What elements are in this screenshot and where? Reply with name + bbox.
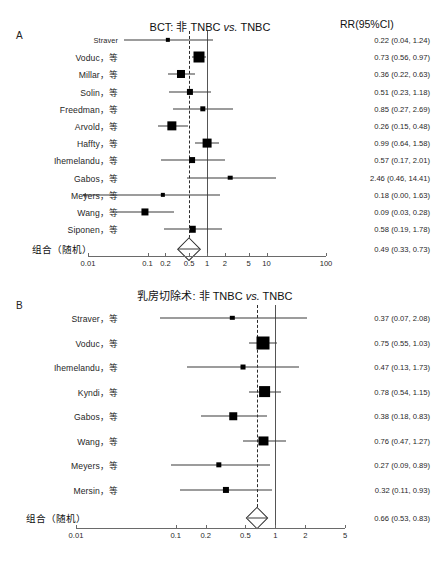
x-axis-tick bbox=[165, 253, 166, 256]
x-axis-tick-label: 1 bbox=[273, 531, 277, 540]
effect-estimate-marker bbox=[230, 316, 234, 320]
x-axis-tick bbox=[305, 525, 306, 528]
effect-value-text: 0.58 (0.19, 1.78) bbox=[374, 225, 430, 234]
x-axis-tick-label: 0.5 bbox=[184, 259, 195, 268]
study-label: Haffty，等 bbox=[77, 137, 118, 149]
panel-a-plot-area: Straver0.22 (0.04, 1.24)Voduc，等0.73 (0.5… bbox=[0, 0, 432, 285]
study-label: Straver，等 bbox=[71, 312, 118, 324]
effect-estimate-marker bbox=[259, 436, 268, 445]
x-axis-line bbox=[76, 528, 345, 529]
x-axis-tick-label: 0.01 bbox=[81, 259, 96, 268]
effect-value-text: 0.51 (0.23, 1.18) bbox=[374, 87, 430, 96]
study-label: Millar，等 bbox=[79, 68, 118, 80]
x-axis-tick bbox=[189, 253, 190, 256]
effect-value-text: 0.26 (0.15, 0.48) bbox=[374, 122, 430, 131]
study-label: Solin，等 bbox=[80, 86, 118, 98]
study-label: Gabos，等 bbox=[74, 410, 118, 422]
x-axis-tick-label: 5 bbox=[343, 531, 347, 540]
effect-estimate-marker bbox=[240, 365, 245, 370]
forest-plot-panel-b: B 乳房切除术: 非 TNBC vs. TNBC Straver，等0.37 (… bbox=[0, 283, 432, 545]
panel-b-plot-area: Straver，等0.37 (0.07, 2.08)Voduc，等0.75 (0… bbox=[0, 283, 432, 545]
effect-estimate-marker bbox=[161, 193, 165, 197]
study-label: Siponen，等 bbox=[68, 223, 118, 235]
study-label: Voduc，等 bbox=[75, 337, 118, 349]
study-label: Wang，等 bbox=[77, 435, 118, 447]
x-axis-tick bbox=[267, 253, 268, 256]
effect-value-text: 0.32 (0.11, 0.93) bbox=[375, 485, 430, 494]
effect-value-text: 2.46 (0.46, 14.41) bbox=[370, 173, 430, 182]
study-label: Ihemelandu，等 bbox=[54, 361, 118, 373]
x-axis-tick bbox=[206, 525, 207, 528]
effect-value-text: 0.37 (0.07, 2.08) bbox=[374, 314, 430, 323]
effect-value-text: 0.76 (0.47, 1.27) bbox=[374, 436, 430, 445]
x-axis-tick bbox=[345, 525, 346, 528]
study-label: Freedman，等 bbox=[60, 103, 118, 115]
pooled-confidence-interval-line bbox=[248, 518, 267, 519]
study-label: Wang，等 bbox=[77, 206, 118, 218]
effect-value-text: 0.57 (0.17, 2.01) bbox=[374, 156, 430, 165]
pooled-effect-value-text: 0.49 (0.33, 0.73) bbox=[374, 245, 430, 254]
effect-value-text: 0.09 (0.03, 0.28) bbox=[374, 208, 430, 217]
effect-value-text: 0.85 (0.27, 2.69) bbox=[374, 104, 430, 113]
x-axis-tick-label: 0.1 bbox=[142, 259, 153, 268]
effect-estimate-marker bbox=[256, 336, 269, 349]
x-axis-tick bbox=[148, 253, 149, 256]
effect-estimate-marker bbox=[177, 70, 185, 78]
combined-random-effects-label: 组合（随机） bbox=[26, 511, 86, 525]
effect-estimate-marker bbox=[187, 89, 193, 95]
x-axis-tick bbox=[275, 525, 276, 528]
study-label: Ihemelandu，等 bbox=[54, 154, 118, 166]
x-axis-tick-label: 0.01 bbox=[69, 531, 84, 540]
x-axis-tick bbox=[76, 525, 77, 528]
study-label: Gabos，等 bbox=[74, 172, 118, 184]
study-label: Meyers，等 bbox=[71, 459, 118, 471]
effect-estimate-marker bbox=[200, 106, 205, 111]
x-axis-tick-label: 0.5 bbox=[240, 531, 251, 540]
study-label: Straver bbox=[93, 36, 118, 45]
effect-estimate-marker bbox=[166, 38, 170, 42]
effect-value-text: 0.73 (0.56, 0.97) bbox=[374, 53, 430, 62]
study-label: Mersin，等 bbox=[73, 484, 118, 496]
x-axis-tick-label: 0.1 bbox=[170, 531, 181, 540]
study-label: Kyndi，等 bbox=[78, 386, 118, 398]
null-effect-line bbox=[275, 305, 276, 528]
effect-value-text: 0.38 (0.18, 0.83) bbox=[374, 412, 430, 421]
x-axis-tick bbox=[207, 253, 208, 256]
x-axis-tick-label: 10 bbox=[262, 259, 270, 268]
effect-value-text: 0.99 (0.64, 1.58) bbox=[374, 139, 430, 148]
pooled-effect-value-text: 0.66 (0.53, 0.83) bbox=[374, 514, 430, 523]
x-axis-tick-label: 2 bbox=[303, 531, 307, 540]
effect-estimate-marker bbox=[141, 208, 148, 215]
x-axis-tick-label: 0.2 bbox=[160, 259, 171, 268]
effect-estimate-marker bbox=[168, 121, 177, 130]
effect-estimate-marker bbox=[190, 226, 196, 232]
combined-random-effects-label: 组合（随机） bbox=[32, 242, 92, 256]
effect-estimate-marker bbox=[202, 139, 211, 148]
x-axis-tick bbox=[326, 253, 327, 256]
effect-estimate-marker bbox=[216, 462, 221, 467]
x-axis-tick-label: 2 bbox=[223, 259, 227, 268]
effect-estimate-marker bbox=[223, 486, 229, 492]
effect-estimate-marker bbox=[193, 52, 204, 63]
pooled-effect-line bbox=[189, 31, 190, 254]
x-axis-line bbox=[88, 256, 326, 257]
effect-estimate-marker bbox=[230, 412, 238, 420]
x-axis-tick bbox=[176, 525, 177, 528]
effect-value-text: 0.47 (0.13, 1.73) bbox=[374, 363, 430, 372]
effect-value-text: 0.18 (0.00, 1.63) bbox=[374, 190, 430, 199]
study-label: Voduc，等 bbox=[75, 51, 118, 63]
effect-value-text: 0.36 (0.22, 0.63) bbox=[374, 70, 430, 79]
effect-estimate-marker bbox=[259, 386, 271, 398]
forest-plot-panel-a: A BCT: 非 TNBC vs. TNBC RR(95%CI) Straver… bbox=[0, 0, 432, 285]
x-axis-tick-label: 1 bbox=[205, 259, 209, 268]
x-axis-tick bbox=[245, 525, 246, 528]
effect-estimate-marker bbox=[228, 175, 233, 180]
x-axis-tick bbox=[225, 253, 226, 256]
x-axis-tick bbox=[249, 253, 250, 256]
effect-value-text: 0.22 (0.04, 1.24) bbox=[374, 36, 430, 45]
x-axis-tick bbox=[88, 253, 89, 256]
effect-value-text: 0.75 (0.55, 1.03) bbox=[374, 338, 430, 347]
effect-estimate-marker bbox=[190, 157, 196, 163]
x-axis-tick-label: 0.2 bbox=[200, 531, 211, 540]
effect-value-text: 0.78 (0.54, 1.15) bbox=[374, 387, 430, 396]
